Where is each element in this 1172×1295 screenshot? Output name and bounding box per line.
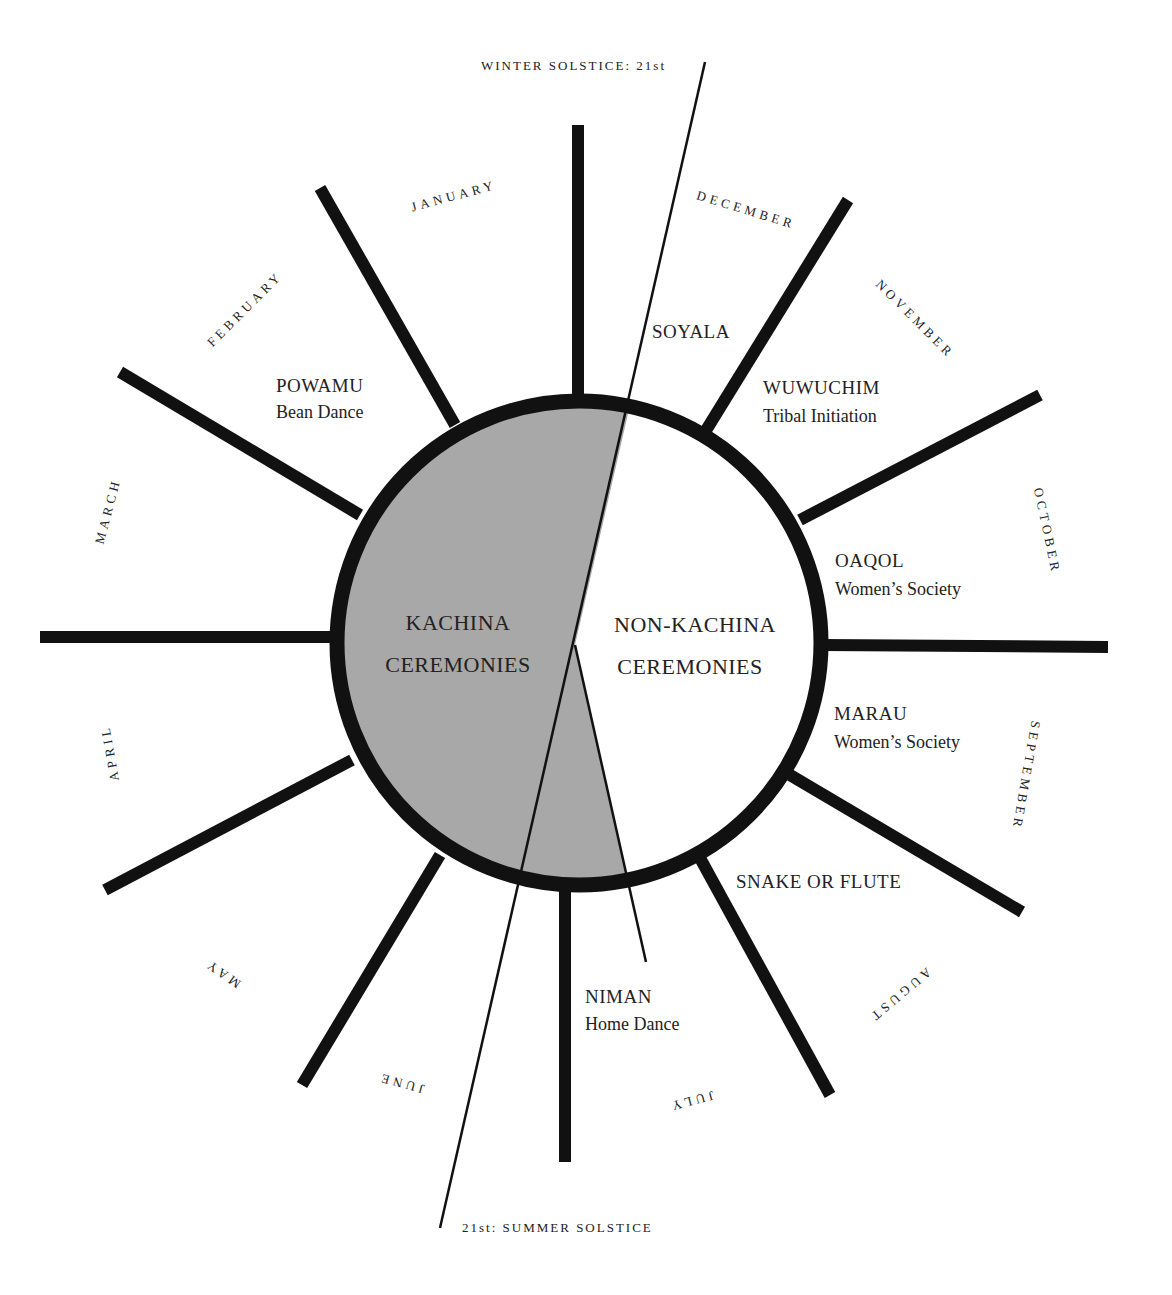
- ceremony-powamu-name: POWAMU: [276, 375, 363, 396]
- month-may: MAY: [201, 956, 243, 992]
- ceremony-marau-name: MARAU: [834, 703, 907, 724]
- spoke-sep-oct: [822, 645, 1108, 647]
- ceremony-wuwuchim-name: WUWUCHIM: [763, 377, 880, 398]
- ceremony-powamu-desc: Bean Dance: [276, 402, 363, 422]
- spoke-jul-aug: [700, 858, 830, 1095]
- ceremony-niman-name: NIMAN: [585, 986, 652, 1007]
- hopi-ceremonial-calendar: WINTER SOLSTICE: 21st 21st: SUMMER SOLST…: [0, 0, 1172, 1295]
- month-january: JANUARY: [409, 177, 498, 214]
- ceremony-niman-desc: Home Dance: [585, 1014, 679, 1034]
- month-september: SEPTEMBER: [1009, 720, 1043, 832]
- winter-solstice-label: WINTER SOLSTICE: 21st: [481, 58, 666, 73]
- kachina-label-line2: CEREMONIES: [385, 652, 531, 677]
- ceremony-oaqol-desc: Women’s Society: [835, 579, 961, 599]
- month-december: DECEMBER: [695, 187, 798, 231]
- summer-solstice-label: 21st: SUMMER SOLSTICE: [462, 1220, 653, 1235]
- month-april: APRIL: [97, 723, 122, 782]
- ceremony-marau-desc: Women’s Society: [834, 732, 960, 752]
- month-february: FEBRUARY: [204, 268, 286, 350]
- spoke-may-jun: [302, 855, 440, 1085]
- spoke-apr-may: [105, 760, 352, 890]
- ceremony-wuwuchim-desc: Tribal Initiation: [763, 406, 877, 426]
- month-august: AUGUST: [866, 965, 934, 1026]
- month-june: JUNE: [376, 1070, 426, 1097]
- ceremony-snake-flute-name: SNAKE OR FLUTE: [736, 871, 901, 892]
- kachina-label-line1: KACHINA: [406, 610, 511, 635]
- ceremony-soyala-name: SOYALA: [652, 321, 730, 342]
- month-october: OCTOBER: [1031, 486, 1064, 576]
- month-march: MARCH: [92, 476, 124, 545]
- nonkachina-label-line1: NON-KACHINA: [614, 612, 776, 637]
- nonkachina-label-line2: CEREMONIES: [617, 654, 763, 679]
- ceremony-oaqol-name: OAQOL: [835, 550, 904, 571]
- month-november: NOVEMBER: [873, 276, 958, 361]
- month-july: JULY: [667, 1088, 716, 1115]
